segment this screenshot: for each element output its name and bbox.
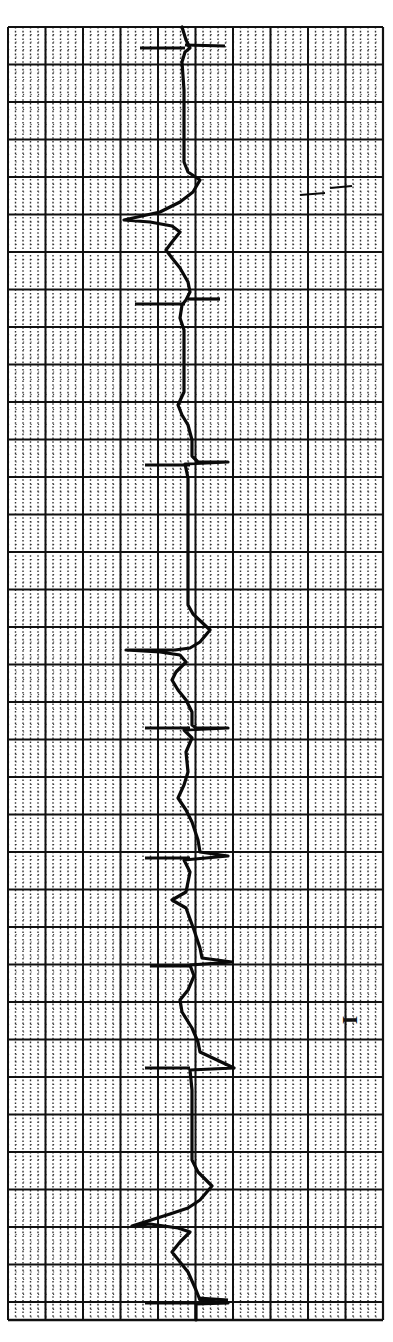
ecg-major-grid xyxy=(8,27,383,1320)
ecg-strip xyxy=(0,0,393,1342)
lead-label: I xyxy=(338,1008,362,1032)
